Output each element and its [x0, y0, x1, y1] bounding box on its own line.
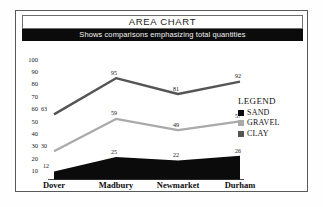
y-tick-90: 90 [22, 69, 38, 76]
value-label-sand-madbury: 25 [111, 149, 117, 155]
x-tick-newmarket: Newmarket [148, 181, 208, 190]
y-tick-50: 50 [22, 119, 38, 126]
legend-item-gravel[interactable]: GRAVEL [238, 119, 290, 128]
value-label-sand-newmarket: 22 [173, 152, 179, 158]
chart-subtitle-band: Shows comparisons emphasizing total quan… [22, 29, 303, 41]
x-tick-dover: Dover [27, 181, 81, 190]
x-tick-durham: Durham [213, 181, 267, 190]
y-tick-20: 20 [22, 156, 38, 163]
legend-label-gravel: GRAVEL [247, 119, 280, 127]
value-label-gravel-madbury: 59 [111, 110, 117, 116]
legend-label-clay: CLAY [247, 130, 269, 138]
value-label-sand-dover: 12 [43, 163, 49, 169]
y-tick-10: 10 [22, 168, 38, 175]
value-label-clay-madbury: 95 [111, 70, 117, 76]
y-tick-30: 30 [22, 143, 38, 150]
value-label-clay-durham: 92 [235, 73, 241, 79]
page-title: AREA CHART [129, 17, 197, 27]
legend-swatch-gravel-icon [238, 120, 244, 126]
y-tick-100: 100 [22, 57, 38, 64]
legend-label-sand: SAND [247, 109, 270, 117]
value-label-clay-dover: 63 [41, 106, 47, 112]
chart-subtitle: Shows comparisons emphasizing total quan… [79, 31, 245, 39]
value-label-gravel-dover: 30 [41, 143, 47, 149]
legend-swatch-sand-icon [238, 110, 244, 116]
series-area-sand [54, 156, 240, 180]
y-tick-80: 80 [22, 81, 38, 88]
series-line-gravel [54, 119, 240, 151]
legend-item-sand[interactable]: SAND [238, 108, 290, 117]
chart-legend: LEGEND SAND GRAVEL CLAY [238, 97, 290, 138]
legend-swatch-clay-icon [238, 131, 244, 137]
value-label-gravel-newmarket: 49 [173, 122, 179, 128]
y-tick-40: 40 [22, 131, 38, 138]
chart-title-band: AREA CHART [22, 15, 303, 29]
y-tick-60: 60 [22, 106, 38, 113]
area-chart-figure: AREA CHART Shows comparisons emphasizing… [0, 0, 323, 207]
series-line-clay [54, 78, 240, 114]
y-tick-70: 70 [22, 94, 38, 101]
value-label-clay-newmarket: 81 [173, 86, 179, 92]
legend-item-clay[interactable]: CLAY [238, 129, 290, 138]
legend-title: LEGEND [238, 97, 290, 106]
value-label-sand-durham: 26 [235, 148, 241, 154]
x-tick-madbury: Madbury [89, 181, 143, 190]
